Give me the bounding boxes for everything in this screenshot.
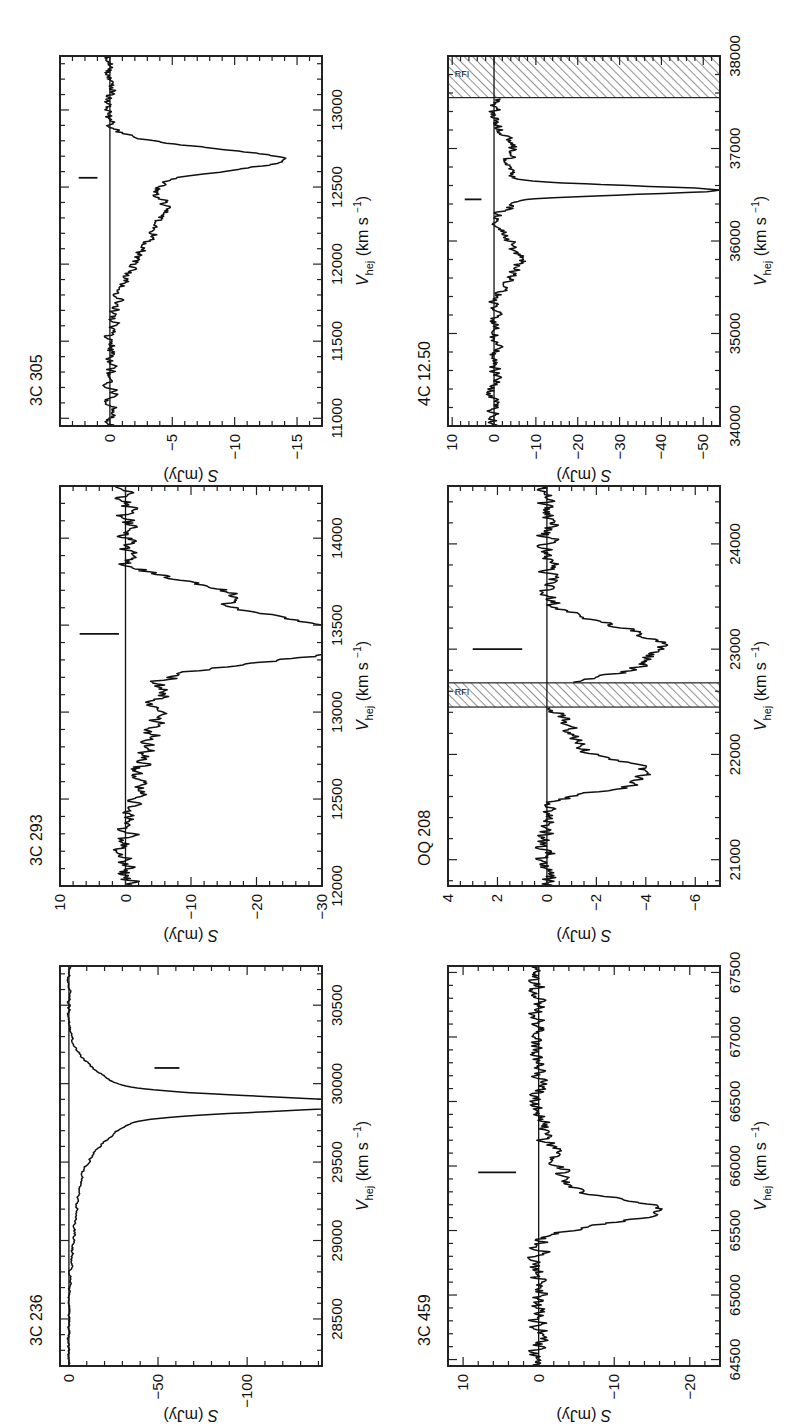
y-axis-label: S (mJy) bbox=[556, 467, 611, 484]
y-tick-label: −10 bbox=[226, 434, 243, 459]
y-tick-label: 0 bbox=[117, 894, 134, 902]
y-tick-label: −30 bbox=[611, 434, 628, 459]
x-tick-label: 66500 bbox=[726, 1081, 743, 1123]
x-tick-label: 11500 bbox=[328, 321, 345, 362]
x-tick-label: 64500 bbox=[726, 1339, 743, 1381]
y-tick-label: −20 bbox=[569, 434, 586, 459]
y-tick-label: −6 bbox=[686, 894, 703, 911]
x-tick-label: 28500 bbox=[328, 1298, 345, 1340]
spectrum-panel: 1200012500130001350014000100−10−20−303C … bbox=[28, 486, 375, 944]
x-axis-label: Vhej (km s −1) bbox=[352, 641, 375, 731]
rfi-band bbox=[448, 683, 720, 707]
y-tick-label: −15 bbox=[288, 434, 305, 459]
panel-title: 4C 12.50 bbox=[416, 341, 433, 406]
spectrum-panel: RFI3400035000360003700038000100−10−20−30… bbox=[416, 35, 773, 484]
rfi-label: RFI bbox=[455, 687, 470, 697]
y-tick-label: −20 bbox=[248, 894, 265, 919]
spectrum-panel: 11000115001200012500130000−5−10−153C 305… bbox=[28, 56, 375, 484]
x-tick-label: 22000 bbox=[726, 734, 743, 776]
x-tick-label: 11000 bbox=[328, 398, 345, 439]
y-tick-label: −30 bbox=[313, 894, 330, 919]
x-tick-label: 34000 bbox=[726, 405, 743, 447]
y-tick-label: −20 bbox=[681, 1374, 698, 1399]
x-tick-label: 65500 bbox=[726, 1210, 743, 1252]
y-tick-label: −4 bbox=[637, 894, 654, 911]
plot-frame bbox=[60, 966, 322, 1366]
x-tick-label: 29000 bbox=[328, 1220, 345, 1262]
x-tick-label: 65000 bbox=[726, 1274, 743, 1316]
x-tick-label: 13500 bbox=[328, 604, 345, 646]
y-axis-label: S (mJy) bbox=[163, 467, 218, 484]
y-tick-label: −5 bbox=[163, 434, 180, 451]
x-tick-label: 30500 bbox=[328, 984, 345, 1026]
panel-title: OQ 208 bbox=[416, 810, 433, 866]
x-tick-label: 30000 bbox=[328, 1063, 345, 1105]
panel-title: 3C 236 bbox=[28, 1294, 45, 1346]
rfi-label: RFI bbox=[455, 69, 470, 79]
panel-title: 3C 459 bbox=[416, 1294, 433, 1346]
y-tick-label: 0 bbox=[101, 434, 118, 442]
x-axis-label: Vhej (km s −1) bbox=[750, 1121, 773, 1211]
x-axis-label: Vhej (km s −1) bbox=[352, 196, 375, 286]
y-axis-label: S (mJy) bbox=[163, 1407, 218, 1424]
x-tick-label: 37000 bbox=[726, 128, 743, 170]
spectrum-panel: RFI21000220002300024000420−2−4−6OQ 208Vh… bbox=[416, 486, 773, 944]
x-axis-label: Vhej (km s −1) bbox=[750, 641, 773, 731]
y-tick-label: 0 bbox=[538, 894, 555, 902]
figure-stage: 28500290002950030000305000−50−1003C 236V… bbox=[0, 0, 805, 1426]
panel-title: 3C 293 bbox=[28, 814, 45, 866]
x-tick-label: 13000 bbox=[328, 89, 345, 131]
x-tick-label: 12500 bbox=[328, 166, 345, 208]
x-tick-label: 14000 bbox=[328, 517, 345, 559]
x-tick-label: 67000 bbox=[726, 1016, 743, 1058]
y-axis-label: S (mJy) bbox=[556, 927, 611, 944]
y-tick-label: −10 bbox=[605, 1374, 622, 1399]
y-axis-label: S (mJy) bbox=[556, 1407, 611, 1424]
panel-title: 3C 305 bbox=[28, 354, 45, 406]
spectrum-line bbox=[528, 966, 662, 1366]
y-tick-label: 0 bbox=[530, 1374, 547, 1382]
x-tick-label: 12500 bbox=[328, 778, 345, 820]
rfi-band bbox=[448, 56, 720, 98]
x-tick-label: 67500 bbox=[726, 952, 743, 994]
spectrum-line bbox=[67, 966, 322, 1366]
x-axis-label: Vhej (km s −1) bbox=[750, 196, 773, 286]
y-tick-label: 10 bbox=[51, 894, 68, 911]
x-tick-label: 36000 bbox=[726, 220, 743, 262]
y-tick-label: −50 bbox=[149, 1374, 166, 1399]
y-tick-label: 0 bbox=[60, 1374, 77, 1382]
x-tick-label: 21000 bbox=[726, 839, 743, 881]
x-tick-label: 38000 bbox=[726, 35, 743, 77]
spectra-grid: 28500290002950030000305000−50−1003C 236V… bbox=[0, 0, 805, 1426]
y-tick-label: 2 bbox=[488, 894, 505, 902]
y-tick-label: −10 bbox=[527, 434, 544, 459]
x-tick-label: 12000 bbox=[328, 243, 345, 285]
y-tick-label: −100 bbox=[238, 1374, 255, 1408]
plot-frame bbox=[60, 56, 322, 426]
x-tick-label: 66000 bbox=[726, 1145, 743, 1187]
spectra-figure: 28500290002950030000305000−50−1003C 236V… bbox=[0, 0, 805, 1426]
y-tick-label: 4 bbox=[439, 894, 456, 902]
y-tick-label: −40 bbox=[652, 434, 669, 459]
x-tick-label: 24000 bbox=[726, 523, 743, 565]
plot-frame bbox=[448, 966, 720, 1366]
y-tick-label: 10 bbox=[454, 1374, 471, 1391]
y-tick-label: 10 bbox=[443, 434, 460, 451]
plot-frame bbox=[60, 486, 322, 886]
spectrum-panel: 28500290002950030000305000−50−1003C 236V… bbox=[28, 966, 375, 1424]
x-tick-label: 23000 bbox=[726, 628, 743, 670]
y-tick-label: −2 bbox=[587, 894, 604, 911]
x-tick-label: 13000 bbox=[328, 691, 345, 733]
x-tick-label: 29500 bbox=[328, 1141, 345, 1183]
y-tick-label: 0 bbox=[485, 434, 502, 442]
x-tick-label: 12000 bbox=[328, 865, 345, 907]
spectrum-line bbox=[103, 56, 286, 426]
spectrum-line bbox=[114, 486, 322, 886]
spectrum-panel: 64500650006550066000665006700067500100−1… bbox=[416, 952, 773, 1424]
y-tick-label: −50 bbox=[694, 434, 711, 459]
y-tick-label: −10 bbox=[182, 894, 199, 919]
spectrum-line bbox=[487, 98, 720, 426]
x-axis-label: Vhej (km s −1) bbox=[352, 1121, 375, 1211]
x-tick-label: 35000 bbox=[726, 313, 743, 355]
y-axis-label: S (mJy) bbox=[163, 927, 218, 944]
